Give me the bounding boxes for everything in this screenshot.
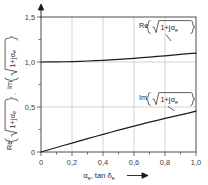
y-axis-title-im-radicand: 1+jαe — [8, 50, 18, 67]
y-axis-title: Re 1+jαe , Im 1+jαe — [5, 36, 18, 150]
chart-svg: 1,5 1,0 0,5 0 0 0,2 0,4 0,6 0,8 1,0 Re 1… — [0, 0, 208, 185]
x-tick-label-1-0: 1,0 — [191, 158, 201, 167]
plot-background — [41, 17, 196, 152]
chart-figure: 1,5 1,0 0,5 0 0 0,2 0,4 0,6 0,8 1,0 Re 1… — [0, 0, 208, 185]
x-axis-tickmarks — [41, 152, 196, 156]
x-tick-label-0-2: 0,2 — [67, 158, 77, 167]
y-tick-label-0: 0 — [31, 148, 35, 157]
y-tick-label-1-5: 1,5 — [25, 13, 35, 22]
x-tick-label-0-8: 0,8 — [160, 158, 170, 167]
x-axis-title-text: αe, tan δe — [83, 171, 114, 181]
x-tick-label-0: 0 — [39, 158, 43, 167]
annotation-real-prefix: Re — [139, 21, 148, 30]
y-axis-title-re-radicand: 1+jαe — [8, 111, 18, 128]
y-axis-title-im-prefix: Im — [5, 81, 14, 89]
x-tick-label-0-6: 0,6 — [129, 158, 139, 167]
y-axis-arrow-icon — [38, 4, 43, 18]
y-axis-title-re-prefix: Re — [5, 141, 14, 150]
y-axis-title-separator: , — [8, 93, 17, 95]
x-axis-title: αe, tan δe — [83, 171, 148, 181]
y-axis-tickmarks — [37, 17, 41, 152]
y-tick-label-0-5: 0,5 — [25, 103, 35, 112]
y-tick-label-1-0: 1,0 — [25, 58, 35, 67]
x-tick-label-0-4: 0,4 — [98, 158, 108, 167]
annotation-imaginary-prefix: Im — [139, 93, 147, 102]
